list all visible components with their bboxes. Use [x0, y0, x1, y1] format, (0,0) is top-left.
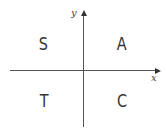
y-axis-arrow-icon	[81, 10, 87, 16]
quadrant-bottom-left-label: T	[40, 91, 49, 111]
y-axis	[83, 13, 84, 127]
quadrant-bottom-right-label: C	[117, 91, 127, 111]
quadrant-top-right-label: A	[117, 34, 127, 54]
x-axis-label: x	[151, 72, 157, 83]
quadrant-top-left-label: S	[39, 34, 48, 54]
y-axis-label: y	[71, 7, 77, 18]
